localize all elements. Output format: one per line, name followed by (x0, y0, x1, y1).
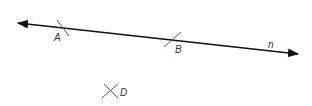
label-a: A (53, 32, 61, 43)
geometry-diagram: A B D n (0, 0, 312, 106)
label-n: n (268, 39, 274, 50)
label-b: B (175, 44, 182, 55)
label-d: D (120, 87, 127, 98)
